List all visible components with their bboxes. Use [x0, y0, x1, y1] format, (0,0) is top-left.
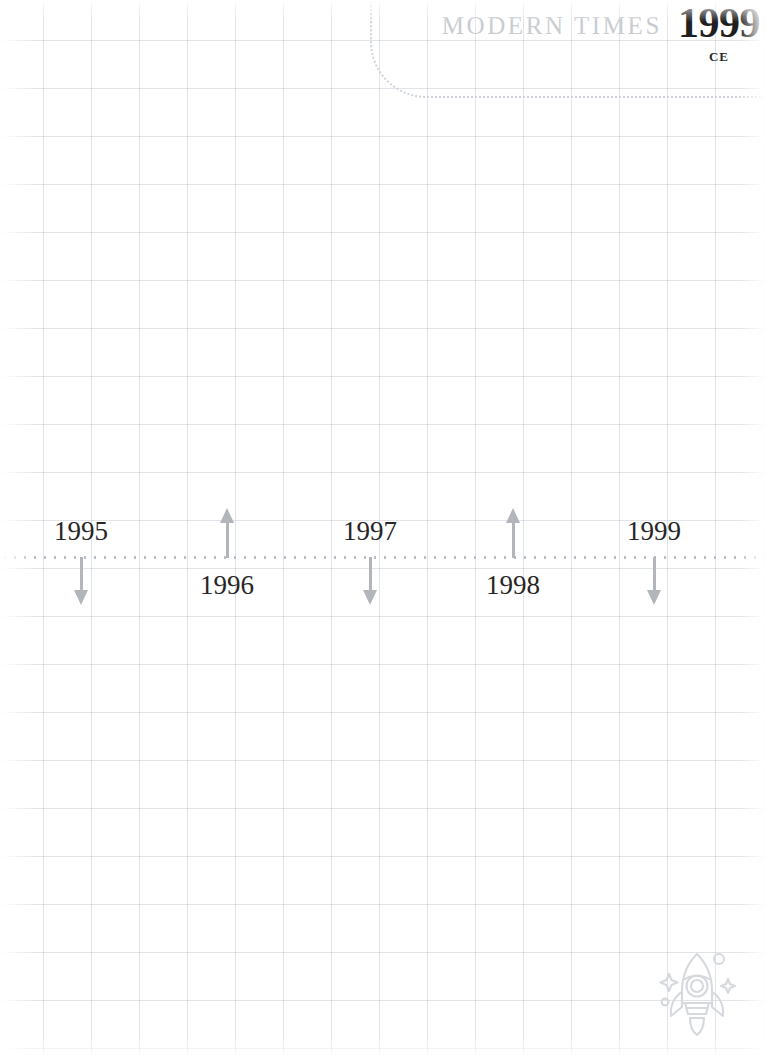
- era-label: MODERN TIMES: [442, 2, 662, 38]
- marker-stem: [80, 557, 83, 593]
- era-year: 1999: [678, 2, 760, 44]
- era-year-block: 1999 CE: [678, 2, 760, 63]
- marker-stem: [653, 557, 656, 593]
- marker-year-label: 1998: [486, 572, 540, 599]
- marker-arrowhead-down: [647, 590, 661, 605]
- marker-stem: [512, 522, 515, 558]
- rocket-icon: [643, 934, 751, 1038]
- marker-year-label: 1995: [54, 518, 108, 545]
- marker-arrowhead-up: [506, 508, 520, 523]
- marker-year-label: 1996: [200, 572, 254, 599]
- marker-stem: [369, 557, 372, 593]
- timeline-axis: [0, 556, 766, 559]
- marker-stem: [226, 522, 229, 558]
- timeline-page: MODERN TIMES 1999 CE 1995199619971998199…: [0, 0, 766, 1056]
- marker-year-label: 1999: [627, 518, 681, 545]
- era-header-plaque: MODERN TIMES 1999 CE: [370, 0, 766, 98]
- era-year-suffix: CE: [678, 50, 760, 63]
- marker-arrowhead-down: [363, 590, 377, 605]
- marker-arrowhead-down: [74, 590, 88, 605]
- marker-arrowhead-up: [220, 508, 234, 523]
- era-header-content: MODERN TIMES 1999 CE: [442, 2, 760, 63]
- marker-year-label: 1997: [343, 518, 397, 545]
